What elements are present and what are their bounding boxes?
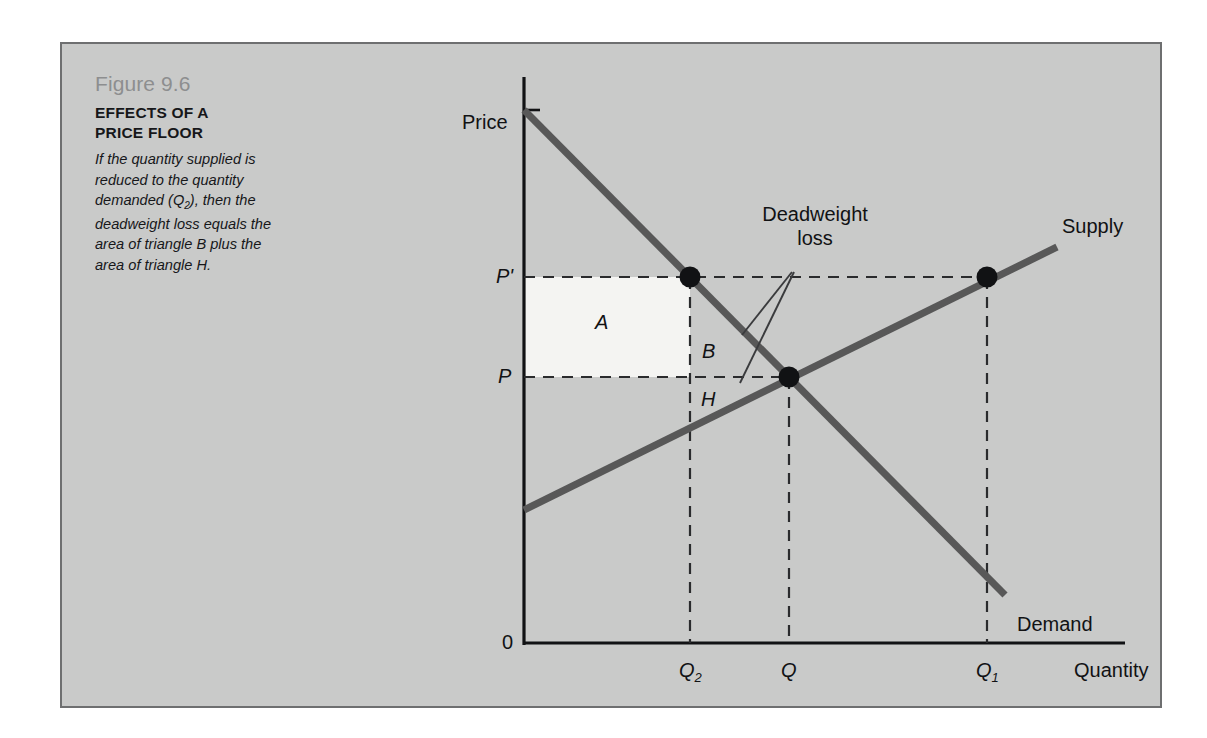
demand-curve-label: Demand (1017, 614, 1093, 634)
q1-tick-label: Q1 (976, 660, 999, 684)
figure-title: EFFECTS OF A PRICE FLOOR (95, 103, 290, 142)
origin-label: 0 (502, 632, 513, 652)
deadweight-loss-line-2: loss (740, 228, 890, 248)
region-b-label: B (702, 341, 715, 361)
price-floor-tick-label: P' (496, 266, 513, 286)
equilibrium-price-tick-label: P (498, 366, 511, 386)
figure-panel: Figure 9.6 EFFECTS OF A PRICE FLOOR If t… (60, 42, 1162, 708)
y-axis-title: Price (462, 112, 508, 132)
figure-number: Figure 9.6 (95, 72, 290, 96)
point-demand-at-price-floor (680, 267, 701, 288)
q2-tick-label: Q2 (679, 660, 702, 684)
deadweight-loss-line-1: Deadweight (740, 204, 890, 224)
figure-title-line-2: PRICE FLOOR (95, 123, 290, 143)
supply-demand-chart: Price Quantity 0 P' P Q2 Q Q1 Supply Dem… (402, 44, 1164, 710)
figure-caption-block: Figure 9.6 EFFECTS OF A PRICE FLOOR If t… (95, 72, 290, 276)
point-equilibrium (779, 367, 800, 388)
q-tick-label: Q (781, 660, 797, 680)
point-supply-at-price-floor (977, 267, 998, 288)
deadweight-loss-annotation: Deadweight loss (740, 204, 890, 248)
region-h-label: H (701, 389, 715, 409)
supply-curve-label: Supply (1062, 216, 1123, 236)
figure-title-line-1: EFFECTS OF A (95, 103, 290, 123)
x-axis-title: Quantity (1074, 660, 1148, 680)
figure-description: If the quantity supplied is reduced to t… (95, 149, 290, 276)
chart-canvas (402, 44, 1164, 710)
region-a-label: A (595, 312, 608, 332)
